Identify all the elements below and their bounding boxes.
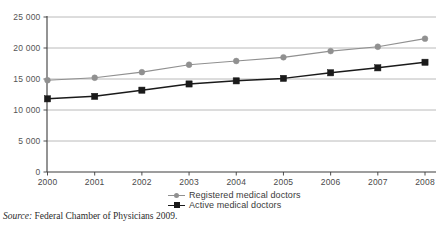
data-point-active [92, 93, 98, 99]
data-point-registered [422, 36, 428, 42]
y-tick-label: 25 000 [0, 12, 41, 22]
data-point-active [328, 70, 334, 76]
x-tick-label: 2006 [311, 177, 351, 187]
data-point-registered [328, 48, 334, 54]
y-tick-label: 0 [0, 167, 41, 177]
legend-item-registered: Registered medical doctors [168, 190, 301, 200]
data-point-active [139, 87, 145, 93]
chart-legend: Registered medical doctors Active medica… [0, 190, 441, 212]
y-tick-label: 20 000 [0, 43, 41, 53]
data-point-active [233, 78, 239, 84]
gridlines-group [47, 17, 436, 141]
y-tick-label: 15 000 [0, 74, 41, 84]
source-note: Source: Federal Chamber of Physicians 20… [3, 211, 177, 221]
data-point-active [375, 65, 381, 71]
x-tick-label: 2004 [216, 177, 256, 187]
legend-marker-square-icon [168, 201, 185, 210]
x-tick-label: 2008 [405, 177, 441, 187]
chart-plot-area: 05 00010 00015 00020 00025 000 200020012… [0, 0, 441, 190]
legend-item-active: Active medical doctors [168, 200, 281, 210]
data-point-active [422, 59, 428, 65]
source-text: Federal Chamber of Physicians 2009. [32, 211, 177, 221]
legend-label-active: Active medical doctors [189, 200, 281, 210]
axes-group [44, 16, 437, 172]
x-tick-label: 2003 [169, 177, 209, 187]
x-tick-label: 2007 [358, 177, 398, 187]
legend-circle-marker [174, 193, 180, 199]
data-point-registered [45, 77, 51, 83]
x-tick-label: 2005 [263, 177, 303, 187]
x-tick-label: 2002 [122, 177, 162, 187]
legend-square-marker [174, 202, 180, 208]
data-point-registered [139, 69, 145, 75]
data-point-registered [375, 44, 381, 50]
y-tick-label: 10 000 [0, 105, 41, 115]
x-tick-label: 2000 [28, 177, 68, 187]
data-point-registered [281, 54, 287, 60]
y-tick-label: 5 000 [0, 136, 41, 146]
data-point-active [186, 81, 192, 87]
data-point-registered [233, 58, 239, 64]
data-point-active [280, 75, 286, 81]
data-point-registered [186, 62, 192, 68]
legend-marker-circle-icon [168, 191, 185, 200]
chart-figure: 05 00010 00015 00020 00025 000 200020012… [0, 0, 441, 225]
data-point-registered [92, 75, 98, 81]
x-tick-label: 2001 [75, 177, 115, 187]
source-prefix: Source: [3, 211, 32, 221]
line-chart-svg [0, 0, 441, 190]
legend-label-registered: Registered medical doctors [189, 190, 301, 200]
data-point-active [44, 96, 50, 102]
